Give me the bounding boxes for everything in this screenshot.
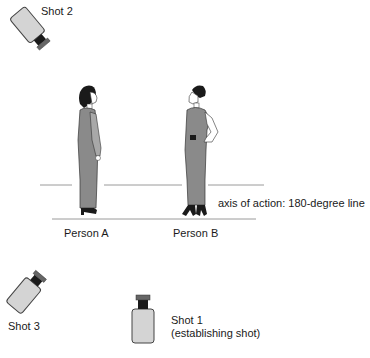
shot-2-label: Shot 2 <box>41 5 73 18</box>
shot-1-label: Shot 1 <box>171 314 203 327</box>
person-a-figure <box>78 86 101 215</box>
person-a-label: Person A <box>64 227 109 240</box>
axis-of-action-label: axis of action: 180-degree line <box>218 197 365 210</box>
diagram-canvas <box>0 0 370 358</box>
person-b-label: Person B <box>173 227 218 240</box>
shot-1-sublabel: (establishing shot) <box>171 327 260 340</box>
shot-3-label: Shot 3 <box>8 320 40 333</box>
camera-shot-1-icon <box>132 295 154 343</box>
person-b-figure <box>182 86 218 217</box>
camera-shot-3-icon <box>6 268 49 314</box>
